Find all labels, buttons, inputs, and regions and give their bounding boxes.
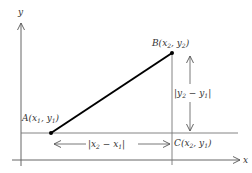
x-axis-label: x — [243, 155, 248, 165]
point-b — [170, 51, 174, 55]
point-b-label: B(x2, y2) — [151, 38, 190, 49]
segment-ab — [51, 53, 172, 133]
point-c-label: C(x2, y1) — [174, 138, 212, 149]
point-a-label: A(x1, y1) — [21, 113, 60, 124]
point-a — [49, 131, 53, 135]
distance-diagram: y x A(x1, y1) B(x2, y2) C(x2, y1) |x2 − … — [0, 0, 252, 173]
horizontal-distance-label: |x2 − x1| — [88, 139, 125, 150]
vertical-distance-label: |y2 − y1| — [174, 88, 211, 99]
y-axis-label: y — [17, 7, 24, 17]
